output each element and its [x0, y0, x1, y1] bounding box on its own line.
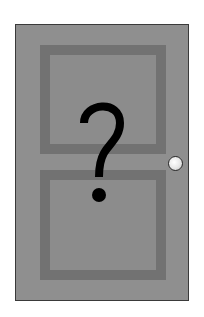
door-icon	[15, 24, 189, 301]
question-mark-icon	[76, 97, 126, 207]
doorknob-icon	[168, 156, 183, 171]
